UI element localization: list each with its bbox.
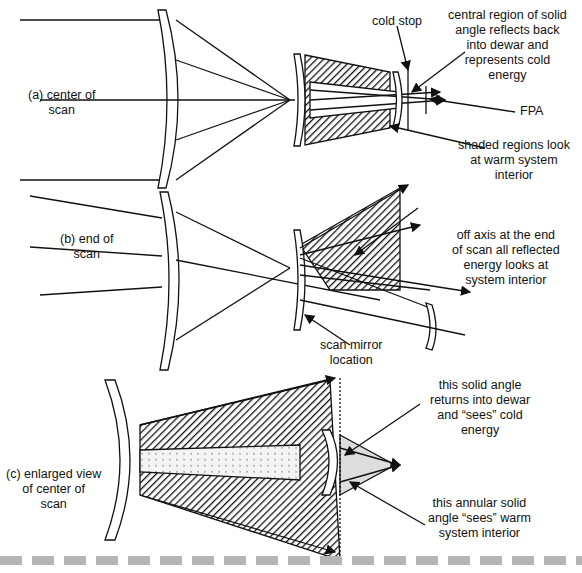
panel-b-end-of-scan xyxy=(30,185,470,370)
central-region-line: into dewar and xyxy=(448,38,567,53)
shaded-regions-line: interior xyxy=(458,168,570,183)
divider-dash xyxy=(160,556,182,565)
divider-dash xyxy=(96,556,118,565)
central-region-line: angle reflects back xyxy=(448,23,567,38)
divider-dash xyxy=(32,556,54,565)
divider-dash xyxy=(192,556,214,565)
scan-mirror-line: scan mirror xyxy=(320,338,383,353)
divider-dash xyxy=(480,556,502,565)
divider-dash xyxy=(256,556,278,565)
scan-mirror-label: scan mirror location xyxy=(320,338,383,368)
off-axis-label: off axis at the end of scan all reflecte… xyxy=(452,228,560,288)
divider-dash xyxy=(576,556,582,565)
divider-dash xyxy=(448,556,470,565)
panel-a-label-line2: scan xyxy=(28,103,95,118)
divider-dash xyxy=(352,556,374,565)
divider-dash xyxy=(128,556,150,565)
solid-angle-returns-line: and “sees” cold xyxy=(430,408,530,423)
off-axis-line: energy looks at xyxy=(452,258,560,273)
divider-dash xyxy=(416,556,438,565)
panel-c-label-line2: of center of xyxy=(6,482,101,497)
panel-a-label-line1: (a) center of xyxy=(28,88,95,103)
divider-dash xyxy=(224,556,246,565)
divider-dash xyxy=(384,556,406,565)
panel-c-label-line1: (c) enlarged view xyxy=(6,467,101,482)
central-region-line: energy xyxy=(448,68,567,83)
annular-solid-angle-line: this annular solid xyxy=(428,496,531,511)
scan-mirror-line: location xyxy=(320,353,383,368)
fpa-label: FPA xyxy=(520,104,543,119)
off-axis-line: of scan all reflected xyxy=(452,243,560,258)
shaded-regions-line: shaded regions look xyxy=(458,138,570,153)
divider-dash xyxy=(544,556,566,565)
panel-b-label-line1: (b) end of xyxy=(60,232,114,247)
central-region-line: central region of solid xyxy=(448,8,567,23)
annular-solid-angle-label: this annular solid angle “sees” warm sys… xyxy=(428,496,531,541)
solid-angle-returns-line: returns into dewar xyxy=(430,393,530,408)
shaded-regions-line: at warm system xyxy=(458,153,570,168)
panel-a-label: (a) center of scan xyxy=(28,88,95,118)
cold-stop-label: cold stop xyxy=(372,14,422,29)
panel-b-label-line2: scan xyxy=(60,247,114,262)
divider-dash xyxy=(64,556,86,565)
panel-b-label: (b) end of scan xyxy=(60,232,114,262)
annular-solid-angle-line: system interior xyxy=(428,526,531,541)
divider-dash xyxy=(512,556,534,565)
solid-angle-returns-line: energy xyxy=(430,423,530,438)
shaded-regions-label: shaded regions look at warm system inter… xyxy=(458,138,570,183)
solid-angle-returns-label: this solid angle returns into dewar and … xyxy=(430,378,530,438)
off-axis-line: off axis at the end xyxy=(452,228,560,243)
annular-solid-angle-line: angle “sees” warm xyxy=(428,511,531,526)
panel-c-enlarged-view xyxy=(105,378,425,560)
central-region-line: represents cold xyxy=(448,53,567,68)
central-region-label: central region of solid angle reflects b… xyxy=(448,8,567,83)
solid-angle-returns-line: this solid angle xyxy=(430,378,530,393)
off-axis-line: system interior xyxy=(452,273,560,288)
panel-c-label-line3: scan xyxy=(6,497,101,512)
divider-dash xyxy=(320,556,342,565)
panel-c-label: (c) enlarged view of center of scan xyxy=(6,467,101,512)
divider-dash xyxy=(0,556,22,565)
divider-dash xyxy=(288,556,310,565)
